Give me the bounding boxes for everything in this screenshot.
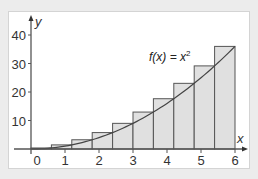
function-label-base: f(x) = x (149, 50, 187, 64)
function-label: f(x) = x2 (149, 49, 191, 64)
bar (92, 133, 112, 149)
x-tick-label: 0 (33, 153, 40, 168)
x-ticks: 0123456 (33, 149, 238, 168)
bar (113, 123, 133, 149)
x-tick-label: 2 (95, 153, 102, 168)
bar (194, 66, 214, 149)
function-label-exponent: 2 (186, 49, 191, 58)
y-ticks: 10203040 (12, 28, 31, 129)
y-tick-label: 30 (12, 57, 26, 72)
bar (174, 83, 194, 149)
x-tick-label: 3 (129, 153, 136, 168)
x-axis-arrow-icon (242, 147, 248, 152)
y-tick-label: 10 (12, 114, 26, 129)
riemann-sum-chart: 10203040 0123456 y x f(x) = x2 (0, 0, 258, 179)
x-axis-label: x (236, 131, 244, 146)
bars (31, 46, 235, 149)
y-tick-label: 40 (12, 28, 26, 43)
bar (215, 46, 235, 149)
y-axis-label: y (34, 14, 43, 29)
y-tick-label: 20 (12, 85, 26, 100)
x-tick-label: 5 (197, 153, 204, 168)
x-tick-label: 1 (61, 153, 68, 168)
y-axis-arrow-icon (29, 15, 34, 21)
x-tick-label: 4 (163, 153, 170, 168)
x-tick-label: 6 (231, 153, 238, 168)
